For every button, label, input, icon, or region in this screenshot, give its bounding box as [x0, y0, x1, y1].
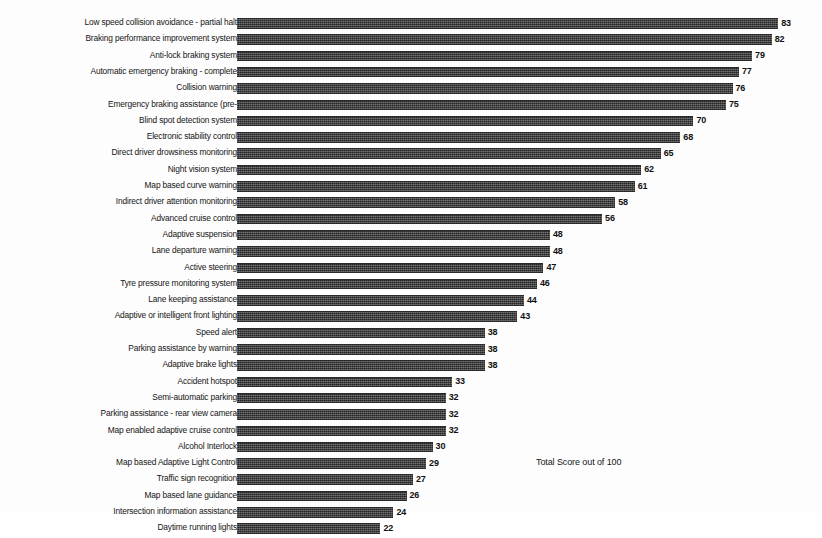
- bar-row: Electronic stability control68: [0, 131, 822, 147]
- category-label: Collision warning: [5, 82, 237, 94]
- bar: [237, 246, 550, 257]
- bar-value-label: 43: [520, 311, 530, 322]
- bar-value-label: 46: [540, 278, 550, 289]
- category-label: Indirect driver attention monitoring: [5, 196, 237, 208]
- category-label: Automatic emergency braking - complete: [5, 65, 237, 77]
- bar-row: Low speed collision avoidance - partial …: [0, 17, 822, 33]
- bar: [237, 491, 407, 502]
- bar: [237, 100, 726, 111]
- bar-value-label: 77: [742, 66, 752, 77]
- bar-value-label: 47: [546, 262, 556, 273]
- bar: [237, 474, 413, 485]
- category-label: Advanced cruise control: [5, 212, 237, 224]
- bar-row: Semi-automatic parking32: [0, 392, 822, 408]
- bar-value-label: 26: [410, 490, 420, 501]
- bar: [237, 393, 446, 404]
- category-label: Electronic stability control: [5, 131, 237, 143]
- bar: [237, 197, 615, 208]
- bar-row: Accident hotspot33: [0, 376, 822, 392]
- bar-row: Speed alert38: [0, 327, 822, 343]
- bar-row: Parking assistance by warning38: [0, 343, 822, 359]
- chart-annotation-total-score: Total Score out of 100: [536, 457, 621, 467]
- category-label: Emergency braking assistance (pre-: [5, 98, 237, 110]
- bar-value-label: 68: [683, 132, 693, 143]
- bar: [237, 132, 680, 143]
- bar: [237, 263, 543, 274]
- bar-value-label: 32: [449, 425, 459, 436]
- category-label: Adaptive or intelligent front lighting: [5, 310, 237, 322]
- bar-value-label: 27: [416, 474, 426, 485]
- bar-value-label: 83: [781, 18, 791, 29]
- bar: [237, 279, 537, 290]
- bar-value-label: 24: [396, 507, 406, 518]
- bar: [237, 377, 452, 388]
- bar-row: Lane departure warning48: [0, 245, 822, 261]
- bar: [237, 230, 550, 241]
- bar-row: Indirect driver attention monitoring58: [0, 196, 822, 212]
- bar-row: Tyre pressure monitoring system46: [0, 278, 822, 294]
- bar-row: Alcohol Interlock30: [0, 441, 822, 457]
- bar-value-label: 70: [696, 115, 706, 126]
- bar-value-label: 38: [488, 360, 498, 371]
- category-label: Parking assistance by warning: [5, 343, 237, 355]
- bar-row: Map enabled adaptive cruise control32: [0, 425, 822, 441]
- category-label: Map enabled adaptive cruise control: [5, 424, 237, 436]
- category-label: Adaptive brake lights: [5, 359, 237, 371]
- bar: [237, 83, 733, 94]
- bar-row: Anti-lock braking system79: [0, 50, 822, 66]
- bar-row: Map based Adaptive Light Control29: [0, 457, 822, 473]
- bar: [237, 344, 485, 355]
- category-label: Traffic sign recognition: [5, 473, 237, 485]
- category-label: Low speed collision avoidance - partial …: [5, 17, 237, 29]
- bar-value-label: 48: [553, 229, 563, 240]
- bar-row: Lane keeping assistance44: [0, 294, 822, 310]
- category-label: Braking performance improvement system: [5, 33, 237, 45]
- category-label: Alcohol Interlock: [5, 440, 237, 452]
- bar-value-label: 48: [553, 246, 563, 257]
- bar-value-label: 32: [449, 392, 459, 403]
- category-label: Intersection information assistance: [5, 506, 237, 518]
- category-label: Map based lane guidance: [5, 489, 237, 501]
- bar: [237, 67, 739, 78]
- bar-value-label: 82: [775, 34, 785, 45]
- bar-value-label: 62: [644, 164, 654, 175]
- bar-row: Collision warning76: [0, 82, 822, 98]
- category-label: Night vision system: [5, 163, 237, 175]
- bar-row: Parking assistance - rear view camera32: [0, 408, 822, 424]
- bar-row: Traffic sign recognition27: [0, 473, 822, 489]
- bar: [237, 360, 485, 371]
- category-label: Semi-automatic parking: [5, 391, 237, 403]
- bar-value-label: 65: [664, 148, 674, 159]
- category-label: Anti-lock braking system: [5, 49, 237, 61]
- category-label: Accident hotspot: [5, 375, 237, 387]
- bar-value-label: 38: [488, 344, 498, 355]
- bar: [237, 295, 524, 306]
- bar-row: Night vision system62: [0, 164, 822, 180]
- bar-row: Adaptive or intelligent front lighting43: [0, 310, 822, 326]
- category-label: Lane keeping assistance: [5, 294, 237, 306]
- category-label: Adaptive suspension: [5, 228, 237, 240]
- bar-row: Adaptive brake lights38: [0, 359, 822, 375]
- bar-value-label: 58: [618, 197, 628, 208]
- bar: [237, 442, 433, 453]
- category-label: Active steering: [5, 261, 237, 273]
- category-label: Speed alert: [5, 326, 237, 338]
- bar: [237, 181, 635, 192]
- bar-value-label: 61: [638, 181, 648, 192]
- bar-value-label: 44: [527, 295, 537, 306]
- bar-value-label: 75: [729, 99, 739, 110]
- bar-row: Automatic emergency braking - complete77: [0, 66, 822, 82]
- bar-row: Braking performance improvement system82: [0, 33, 822, 49]
- bar-value-label: 32: [449, 409, 459, 420]
- bar-value-label: 76: [736, 83, 746, 94]
- category-label: Tyre pressure monitoring system: [5, 277, 237, 289]
- bar-value-label: 56: [605, 213, 615, 224]
- category-label: Map based Adaptive Light Control: [5, 457, 237, 469]
- bar: [237, 18, 778, 29]
- bar: [237, 148, 661, 159]
- category-label: Map based curve warning: [5, 180, 237, 192]
- bar-value-label: 33: [455, 376, 465, 387]
- bar-row: Active steering47: [0, 262, 822, 278]
- bar: [237, 409, 446, 420]
